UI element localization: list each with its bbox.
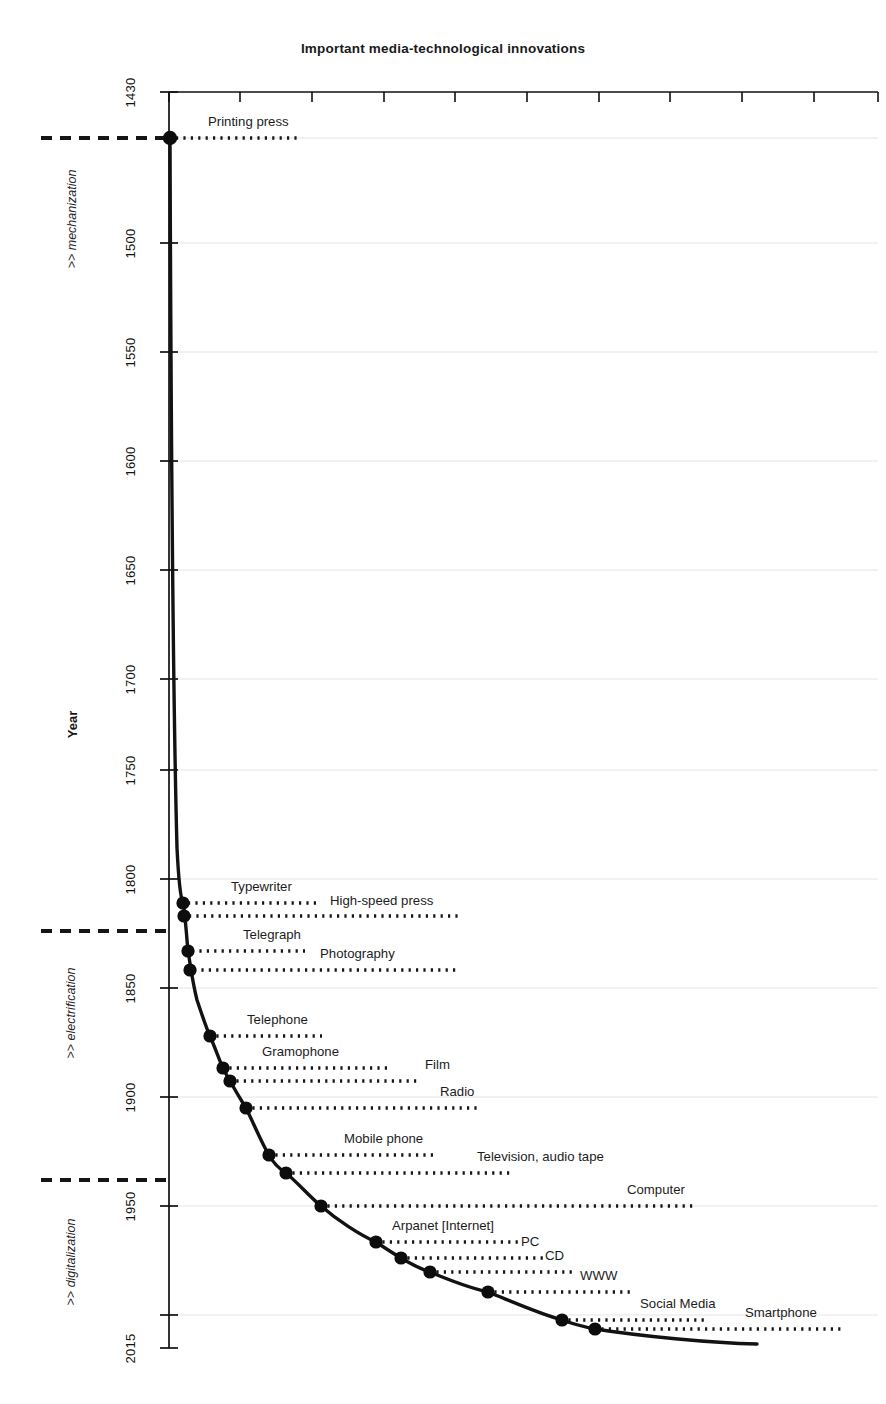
point-telegraph	[181, 944, 194, 957]
y-tick-1850: 1850	[123, 959, 138, 1019]
era-separators	[41, 138, 172, 1180]
event-label-social-media: Social Media	[640, 1297, 716, 1310]
point-mobile-phone	[262, 1148, 275, 1161]
point-telephone	[203, 1029, 216, 1042]
event-label-telegraph: Telegraph	[243, 928, 301, 941]
point-printing-press	[163, 131, 177, 145]
point-cd	[423, 1265, 436, 1278]
point-www	[481, 1285, 494, 1298]
event-label-smartphone: Smartphone	[745, 1306, 817, 1319]
event-label-high-speed-press: High-speed press	[330, 894, 433, 907]
point-smartphone	[588, 1322, 601, 1335]
y-tick-1600: 1600	[123, 432, 138, 492]
event-label-www: WWW	[580, 1269, 617, 1282]
event-label-arpanet: Arpanet [Internet]	[392, 1219, 494, 1232]
event-label-photography: Photography	[320, 947, 395, 960]
event-label-telephone: Telephone	[247, 1013, 308, 1026]
point-gramophone	[216, 1061, 229, 1074]
point-pc	[394, 1251, 407, 1264]
y-tick-1950: 1950	[123, 1177, 138, 1237]
y-tick-1650: 1650	[123, 541, 138, 601]
top-axis	[169, 92, 878, 102]
point-computer	[314, 1199, 327, 1212]
gridlines	[169, 138, 878, 1315]
point-arpanet	[369, 1235, 382, 1248]
point-high-speed-press	[177, 909, 190, 922]
event-label-computer: Computer	[627, 1183, 685, 1196]
y-tick-1550: 1550	[123, 323, 138, 383]
y-tick-1900: 1900	[123, 1068, 138, 1128]
point-radio	[239, 1101, 252, 1114]
event-label-radio: Radio	[440, 1085, 474, 1098]
y-tick-1500: 1500	[123, 214, 138, 274]
y-tick-1430: 1430	[123, 63, 138, 123]
point-social-media	[555, 1313, 568, 1326]
y-axis-title: Year	[65, 695, 80, 755]
era-label-electrification: >> electrification	[64, 928, 78, 1098]
event-label-film: Film	[425, 1058, 450, 1071]
event-label-mobile-phone: Mobile phone	[344, 1132, 423, 1145]
event-label-printing-press: Printing press	[208, 115, 289, 128]
chart-canvas: Important media-technological innovation…	[0, 0, 886, 1404]
point-television-audio-tape	[279, 1166, 292, 1179]
event-label-gramophone: Gramophone	[262, 1045, 339, 1058]
y-tick-1750: 1750	[123, 741, 138, 801]
event-label-typewriter: Typewriter	[231, 880, 292, 893]
point-typewriter	[176, 896, 189, 909]
event-label-cd: CD	[545, 1249, 564, 1262]
era-label-mechanization: >> mechanization	[65, 134, 79, 304]
innovation-curve	[170, 138, 757, 1344]
y-tick-1800: 1800	[123, 850, 138, 910]
y-tick-1700: 1700	[123, 650, 138, 710]
event-label-pc: PC	[521, 1235, 539, 1248]
y-tick-2015: 2015	[123, 1319, 138, 1379]
point-photography	[183, 963, 196, 976]
point-film	[223, 1074, 236, 1087]
era-label-digitalization: >> digitalization	[64, 1177, 78, 1347]
event-label-television-audio-tape: Television, audio tape	[477, 1150, 604, 1163]
